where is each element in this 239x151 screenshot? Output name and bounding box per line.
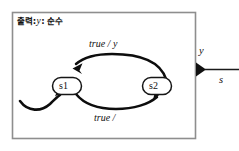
actor-box-background <box>13 13 196 139</box>
state-node-s1[interactable] <box>53 78 82 95</box>
fsm-drawing-surface <box>0 0 239 151</box>
output-port-triangle-icon <box>196 63 206 77</box>
state-node-s2[interactable] <box>143 78 172 95</box>
fsm-figure: 출력:y: 순수 s1 s2 true / y true / y s <box>0 0 239 151</box>
